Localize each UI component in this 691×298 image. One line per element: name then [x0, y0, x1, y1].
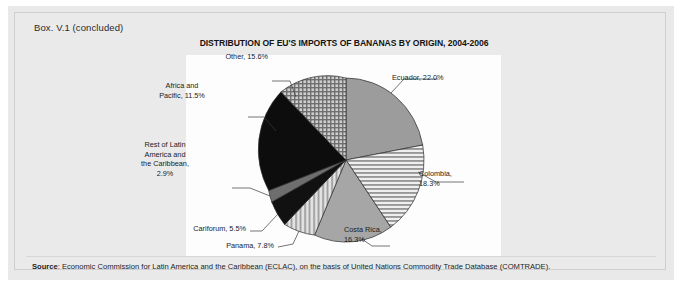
source-text: : Economic Commission for Latin America … — [58, 262, 551, 271]
pie-label-costa-rica: Costa Rica, 16.3% — [344, 225, 382, 244]
pie-label-africa-line1: Africa and — [120, 81, 244, 91]
pie-label-africa-line2: Pacific, 11.5% — [120, 91, 244, 101]
leader-cariforum — [250, 214, 278, 231]
pie-slices — [258, 76, 424, 242]
leader-rest-of-latin-america — [232, 188, 270, 196]
pie-label-africa-and-pacific: Africa and Pacific, 11.5% — [120, 81, 244, 100]
pie-label-other: Other, 15.6% — [166, 52, 268, 62]
pie-label-ecuador: Ecuador, 22.0% — [392, 73, 444, 83]
pie-chart: Ecuador, 22.0% Colombia, 18.3% Costa Ric… — [186, 55, 501, 256]
pie-label-rest-line2: America and — [102, 150, 228, 160]
pie-label-costa-rica-line1: Costa Rica, — [344, 225, 382, 235]
source-prefix: Source — [32, 262, 58, 271]
source-divider — [26, 256, 656, 257]
box-label: Box. V.1 (concluded) — [34, 22, 123, 33]
pie-label-rest-of-latin-america: Rest of Latin America and the Caribbean,… — [102, 140, 228, 178]
pie-label-cariforum: Cariforum, 5.5% — [134, 224, 246, 234]
pie-label-colombia-line2: 18.3% — [419, 179, 452, 189]
pie-label-colombia-line1: Colombia, — [419, 169, 452, 179]
leader-panama — [278, 231, 299, 247]
pie-label-panama: Panama, 7.8% — [186, 241, 274, 251]
chart-title: DISTRIBUTION OF EU'S IMPORTS OF BANANAS … — [186, 38, 502, 48]
pie-label-rest-line3: the Caribbean, — [102, 159, 228, 169]
pie-label-rest-line1: Rest of Latin — [102, 140, 228, 150]
pie-label-colombia: Colombia, 18.3% — [419, 169, 452, 188]
document-page: Box. V.1 (concluded) DISTRIBUTION OF EU'… — [0, 0, 691, 298]
pie-label-costa-rica-line2: 16.3% — [344, 235, 382, 245]
pie-label-rest-line4: 2.9% — [102, 169, 228, 179]
chart-panel: Ecuador, 22.0% Colombia, 18.3% Costa Ric… — [186, 55, 501, 256]
source-note: Source: Economic Commission for Latin Am… — [32, 262, 550, 271]
